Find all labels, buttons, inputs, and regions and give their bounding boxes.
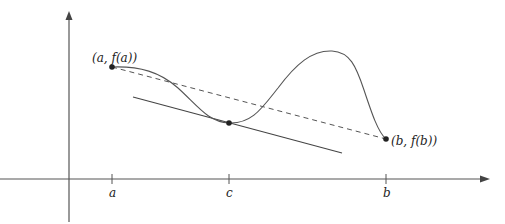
y-axis-arrow-icon — [66, 11, 73, 20]
point-b — [383, 136, 389, 142]
function-curve — [112, 51, 386, 139]
tick-label-b: b — [383, 186, 391, 200]
x-axis: a c b — [0, 174, 490, 200]
y-axis — [66, 11, 73, 222]
point-a — [109, 64, 115, 70]
tick-label-c: c — [226, 186, 233, 200]
tangent-line — [133, 97, 342, 153]
label-b-fb: (b, f(b)) — [391, 134, 437, 148]
x-axis-arrow-icon — [480, 176, 490, 183]
point-c — [226, 120, 232, 126]
tick-label-a: a — [109, 186, 116, 200]
mvt-diagram: a c b (a, f(a)) (b, f(b)) — [0, 0, 505, 224]
label-a-fa: (a, f(a)) — [92, 51, 137, 65]
